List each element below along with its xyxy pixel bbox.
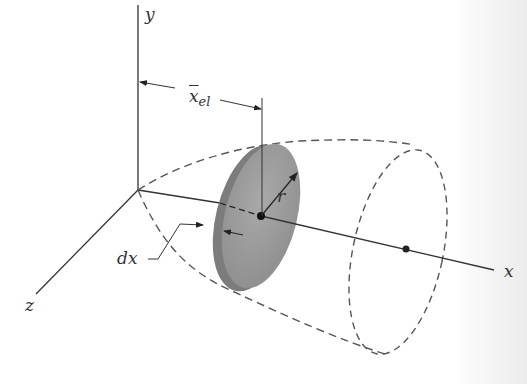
end-center-point [403, 246, 410, 253]
z-axis-label: z [25, 297, 34, 314]
xbar-el-label: xel [189, 88, 210, 105]
end-section-ellipse [332, 141, 463, 363]
y-axis-label: y [145, 6, 155, 23]
diagram-canvas: y x z xel r dx [0, 0, 527, 384]
dx-leader-line [148, 224, 203, 259]
paraboloid-figure [0, 0, 527, 384]
z-axis [36, 190, 138, 294]
radius-label: r [277, 188, 285, 205]
xbar-dimension-right [220, 100, 261, 109]
x-axis-far [261, 216, 494, 270]
x-axis-near [138, 190, 220, 203]
x-axis-label: x [504, 263, 514, 280]
xbar-subscript: el [199, 94, 211, 109]
dx-label: dx [117, 250, 137, 267]
xbar-symbol: x [189, 86, 199, 106]
xbar-dimension-left [140, 82, 175, 88]
